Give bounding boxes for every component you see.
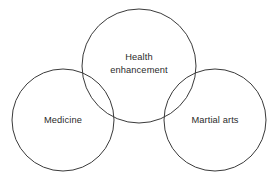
circle-label-health-enhancement-line-2: enhancement	[79, 64, 199, 77]
circle-label-health-enhancement-line-1: Health	[79, 51, 199, 64]
circle-label-medicine: Medicine	[13, 114, 113, 127]
circle-label-health-enhancement: Health enhancement	[79, 51, 199, 76]
three-circle-venn-diagram	[0, 0, 278, 182]
circle-label-martial-arts: Martial arts	[165, 114, 265, 127]
diagram-canvas: Health enhancement Medicine Martial arts	[0, 0, 278, 182]
